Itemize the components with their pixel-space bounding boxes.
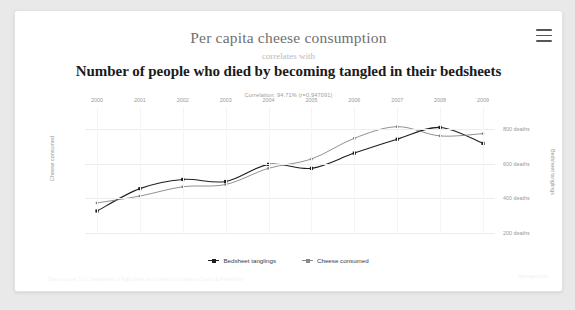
gridline	[85, 233, 495, 234]
vertical-gridline	[226, 107, 227, 233]
y-axis-right-tick: 200 deaths	[503, 230, 530, 236]
legend-label: Cheese consumed	[317, 257, 369, 264]
data-sources-note: Data sources: U.S. Department of Agricul…	[48, 277, 243, 282]
correlation-chart-card: Per capita cheese consumption correlates…	[14, 10, 563, 292]
plot-area: 28.5lbs200 deaths30lbs400 deaths31.5lbs6…	[85, 129, 495, 233]
x-axis-tick-2002: 2002	[177, 97, 189, 103]
series-canvas	[85, 129, 495, 233]
legend-marker-icon	[208, 258, 219, 264]
x-axis-tick-2001: 2001	[134, 97, 146, 103]
vertical-gridline	[440, 107, 441, 233]
chart-title-primary: Per capita cheese consumption	[15, 29, 562, 47]
screenshot-root: Per capita cheese consumption correlates…	[0, 0, 575, 310]
series-line-cheese-consumed	[97, 127, 483, 203]
y-axis-right-tick: 600 deaths	[503, 161, 530, 167]
gridline	[85, 198, 495, 199]
chart-title-secondary: Number of people who died by becoming ta…	[15, 63, 562, 80]
site-watermark: tylervigen.com	[518, 274, 548, 279]
y-axis-left-title: Cheese consumed	[49, 136, 55, 181]
x-axis-tick-2000: 2000	[91, 97, 103, 103]
x-axis-tick-2007: 2007	[391, 97, 403, 103]
legend-label: Bedsheet tanglings	[223, 257, 276, 264]
vertical-gridline	[397, 107, 398, 233]
vertical-gridline	[140, 107, 141, 233]
vertical-gridline	[97, 107, 98, 233]
vertical-gridline	[311, 107, 312, 233]
gridline	[85, 129, 495, 130]
y-axis-right-tick: 800 deaths	[503, 126, 530, 132]
chart-legend: Bedsheet tanglings Cheese consumed	[15, 257, 562, 264]
x-axis-tick-2008: 2008	[434, 97, 446, 103]
chart-title-connector: correlates with	[15, 51, 562, 61]
legend-item-cheese-consumed[interactable]: Cheese consumed	[302, 257, 369, 264]
vertical-gridline	[269, 107, 270, 233]
vertical-gridline	[483, 107, 484, 233]
y-axis-right-title: Bedsheet tanglings	[550, 149, 556, 195]
x-axis-tick-2004: 2004	[263, 97, 275, 103]
x-axis-tick-2005: 2005	[305, 97, 317, 103]
gridline	[85, 164, 495, 165]
x-axis-tick-2009: 2009	[477, 97, 489, 103]
x-axis-tick-2006: 2006	[348, 97, 360, 103]
vertical-gridline	[354, 107, 355, 233]
y-axis-right-tick: 400 deaths	[503, 195, 530, 201]
x-axis-tick-2003: 2003	[220, 97, 232, 103]
vertical-gridline	[183, 107, 184, 233]
legend-item-bedsheet-tanglings[interactable]: Bedsheet tanglings	[208, 257, 276, 264]
legend-marker-icon	[302, 258, 313, 264]
